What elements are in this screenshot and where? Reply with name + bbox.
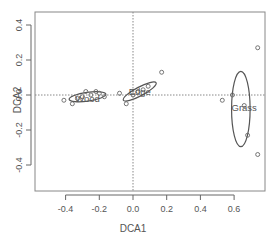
x-tick-label: 0.0 [127,204,140,214]
plot-canvas: -0.4-0.20.00.20.40.6 -0.4-0.20.00.20.4 W… [0,0,279,246]
y-axis-label: DCA2 [12,86,23,113]
y-tick-label: -0.2 [14,122,24,138]
x-tick-label: 0.4 [194,204,207,214]
x-tick-label: -0.4 [58,204,74,214]
plot-frame [35,12,265,191]
y-tick-label: 0.4 [14,19,24,32]
edge-point [124,102,128,106]
y-tick-label: -0.4 [14,157,24,173]
y-tick-label: 0.2 [14,54,24,67]
x-tick-label: 0.6 [228,204,241,214]
wood-point [70,102,74,106]
group-labels: WoodEdgeGrass [75,86,257,113]
x-axis-label: DCA1 [120,223,147,234]
x-axis: -0.4-0.20.00.20.40.6 [58,195,241,214]
x-tick-label: 0.2 [160,204,173,214]
x-tick-label: -0.2 [92,204,108,214]
reference-lines [35,12,265,191]
wood-point [62,98,66,102]
edge-point [160,70,164,74]
wood-group-label: Wood [75,93,100,104]
grass-point [256,46,260,50]
dca-ordination-plot: -0.4-0.20.00.20.40.6 -0.4-0.20.00.20.4 W… [0,0,279,246]
grass-point [220,98,224,102]
group-ellipses [69,71,251,146]
edge-group-label: Edge [129,86,151,97]
grass-group-label: Grass [232,102,258,113]
grass-point [256,153,260,157]
